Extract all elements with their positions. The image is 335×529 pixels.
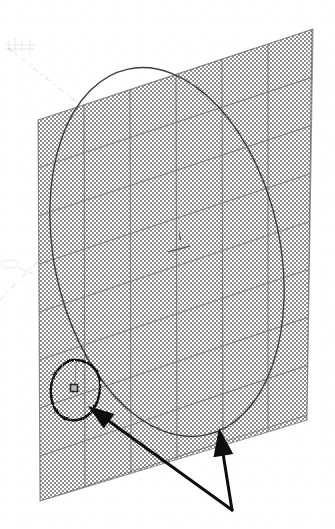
figure-root: Scanned engineering diagram Dithered gre… xyxy=(0,0,335,529)
diagram-canvas xyxy=(0,0,335,529)
square-node-marker xyxy=(71,385,78,392)
